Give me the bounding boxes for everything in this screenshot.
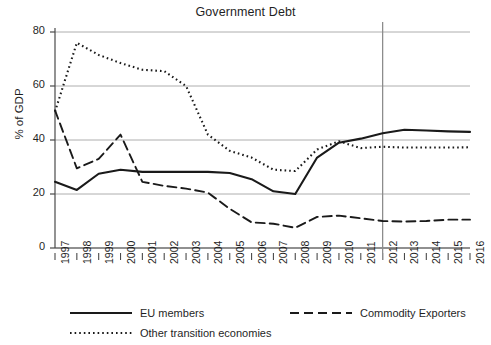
y-axis-tick-label: 60 [19,78,45,90]
chart-legend: EU membersCommodity ExportersOther trans… [0,303,491,345]
legend-item[interactable]: Commodity Exporters [290,307,466,319]
government-debt-chart: Government Debt % of GDP 020406080 19971… [0,0,491,345]
legend-item[interactable]: EU members [70,307,204,319]
x-axis-tick-label: 2008 [299,241,311,264]
y-axis-tick-label: 0 [19,240,45,252]
x-axis-tick-label: 2006 [256,241,268,264]
y-axis-tick-label: 20 [19,186,45,198]
x-axis-tick-label: 1999 [103,241,115,264]
legend-label: Commodity Exporters [360,307,466,319]
legend-label: EU members [140,307,204,319]
x-axis-tick-label: 2002 [168,241,180,264]
y-axis-tick-label: 80 [19,24,45,36]
x-axis-tick-label: 1997 [59,241,71,264]
x-axis-tick-label: 2011 [365,241,377,264]
series-line-1 [55,110,470,227]
legend-item[interactable]: Other transition economies [70,327,271,339]
x-axis-tick-label: 2000 [125,241,137,264]
plot-area [0,0,491,345]
series-line-2 [55,43,470,171]
y-axis-tick-label: 40 [19,132,45,144]
x-axis-tick-label: 2007 [277,241,289,264]
x-axis-tick-label: 2005 [234,241,246,264]
x-axis-tick-label: 2014 [430,241,442,264]
legend-label: Other transition economies [140,327,271,339]
legend-swatch-dashed [290,308,352,318]
x-axis-tick-label: 2003 [190,241,202,264]
x-axis-tick-label: 2010 [343,241,355,264]
x-axis-tick-label: 2001 [146,241,158,264]
x-axis-tick-label: 2004 [212,241,224,264]
x-axis-tick-label: 1998 [81,241,93,264]
x-axis-tick-label: 2016 [474,241,486,264]
legend-swatch-dotted [70,328,132,338]
x-axis-tick-label: 2009 [321,241,333,264]
x-axis-tick-label: 2013 [408,241,420,264]
x-axis-tick-label: 2015 [452,241,464,264]
x-axis-tick-label: 2012 [387,241,399,264]
legend-swatch-solid [70,308,132,318]
